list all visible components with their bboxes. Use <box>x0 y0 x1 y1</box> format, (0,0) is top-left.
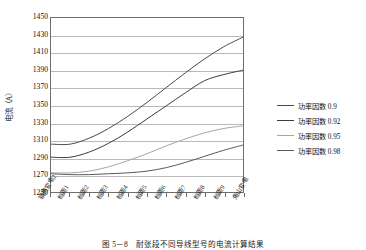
y-axis-tick-label: 1310 <box>4 136 48 144</box>
legend-item-label: 功率因数 0.98 <box>298 146 340 156</box>
y-axis-tick-labels: 1450143014101390137013501330131012901270… <box>0 17 48 193</box>
chart-legend: 功率因数 0.9功率因数 0.92功率因数 0.95功率因数 0.98 <box>277 98 365 158</box>
series-line <box>51 70 243 157</box>
legend-item-label: 功率因数 0.9 <box>298 101 337 111</box>
legend-item-label: 功率因数 0.95 <box>298 131 340 141</box>
plot-area <box>50 17 244 193</box>
y-axis-tick-label: 1370 <box>4 83 48 91</box>
y-axis-tick-label: 1450 <box>4 13 48 21</box>
legend-line-swatch <box>277 135 294 136</box>
series-line <box>51 126 243 173</box>
legend-item[interactable]: 功率因数 0.98 <box>277 143 365 158</box>
legend-item[interactable]: 功率因数 0.95 <box>277 128 365 143</box>
series-lines <box>51 18 243 192</box>
series-line <box>51 37 243 144</box>
x-axis-tick-labels: 镇赉变电2档距1档距2档距3档距4档距5档距6档距7档距8档距9角山变电 <box>0 196 366 236</box>
y-axis-tick-label: 1270 <box>4 171 48 179</box>
y-axis-tick-label: 1410 <box>4 48 48 56</box>
y-axis-tick-label: 1330 <box>4 119 48 127</box>
legend-line-swatch <box>277 150 294 151</box>
y-axis-tick-label: 1290 <box>4 154 48 162</box>
figure-caption: 图 5－8 耐张段不同导线型号的电流计算结果 <box>0 238 366 250</box>
legend-item-label: 功率因数 0.92 <box>298 116 340 126</box>
y-axis-tick-label: 1350 <box>4 101 48 109</box>
legend-item[interactable]: 功率因数 0.92 <box>277 113 365 128</box>
legend-line-swatch <box>277 120 294 121</box>
chart-figure: 电流（A） 1450143014101390137013501330131012… <box>0 0 366 250</box>
y-axis-tick-label: 1390 <box>4 66 48 74</box>
legend-line-swatch <box>277 105 294 106</box>
y-axis-tick-label: 1430 <box>4 31 48 39</box>
series-line <box>51 145 243 175</box>
legend-item[interactable]: 功率因数 0.9 <box>277 98 365 113</box>
